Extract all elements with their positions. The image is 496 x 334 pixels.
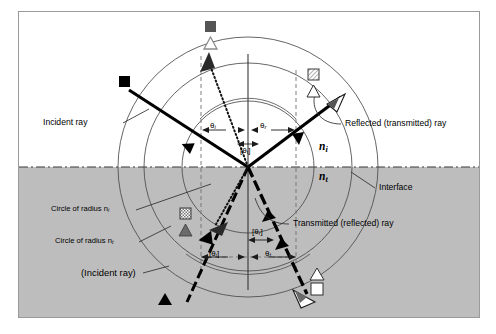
label-n-lower: nt (319, 170, 328, 184)
label-reflected-transmitted-ray: Reflected (transmitted) ray (345, 119, 446, 128)
label-interface: Interface (379, 183, 412, 192)
theta-t-lower-subscript: t (269, 252, 271, 258)
label-circle-radius-nt: Circle of radius nt (55, 237, 114, 246)
circle-ni-subscript: i (108, 207, 109, 213)
theta-i-upper-subscript: i (214, 124, 215, 130)
theta-r-upper-subscript: r (264, 124, 266, 130)
angle-theta-r-lower-bracketed: [θr] (252, 228, 263, 237)
n-upper-subscript: i (325, 145, 327, 154)
marker-bottom-right-square (311, 283, 323, 295)
n-lower-subscript: t (325, 175, 327, 184)
label-circle-radius-ni: Circle of radius ni (51, 205, 109, 214)
figure-root: Incident ray Reflected (transmitted) ray… (0, 0, 496, 334)
label-incident-ray-parenthetical: (Incident ray) (81, 268, 136, 277)
label-n-upper: ni (319, 140, 328, 154)
theta-i-lower-open: [θ (209, 249, 216, 258)
circle-nt-subscript: t (112, 239, 114, 245)
label-transmitted-reflected-ray: Transmitted (reflected) ray (293, 219, 393, 228)
angle-theta-r-upper: θr (260, 122, 266, 131)
theta-t-upper-close: ] (248, 146, 250, 155)
circle-ni-text: Circle of radius n (51, 204, 108, 213)
angle-theta-i-upper: θi (210, 122, 216, 131)
marker-upper-left-square (119, 76, 130, 87)
marker-upper-right-square (308, 69, 319, 80)
label-incident-ray: Incident ray (43, 118, 87, 127)
theta-r-lower-open: [θ (252, 227, 259, 236)
figure-frame: Incident ray Reflected (transmitted) ray… (18, 11, 480, 318)
theta-t-upper-open: [θ (240, 146, 247, 155)
angle-theta-t-lower: θt (265, 250, 271, 259)
theta-r-lower-close: ] (261, 227, 263, 236)
angle-theta-i-lower-bracketed: [θi] (209, 250, 219, 259)
circle-nt-text: Circle of radius n (55, 236, 112, 245)
theta-i-lower-close: ] (217, 249, 219, 258)
marker-top-square (205, 21, 216, 32)
marker-lower-left-square (180, 208, 191, 219)
angle-theta-t-upper-bracketed: [θt] (240, 147, 251, 156)
